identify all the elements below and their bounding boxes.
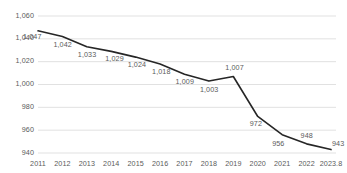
data-point-label: 972 xyxy=(250,120,262,128)
series-line-group xyxy=(38,31,331,150)
data-point-label: 1,024 xyxy=(128,61,147,69)
data-point-label: 956 xyxy=(272,140,284,148)
series-line xyxy=(38,31,331,150)
y-axis-tick-label: 980 xyxy=(2,103,34,111)
y-axis-tick-label: 1,020 xyxy=(2,57,34,65)
data-point-label: 948 xyxy=(301,132,313,140)
data-point-label: 1,042 xyxy=(53,41,72,49)
data-point-label: 943 xyxy=(332,140,344,148)
data-point-label: 1,007 xyxy=(225,64,244,72)
y-axis-tick-label: 1,060 xyxy=(2,12,34,20)
data-point-label: 1,009 xyxy=(176,78,195,86)
data-point-label: 1,003 xyxy=(200,86,219,94)
y-axis-tick-label: 1,000 xyxy=(2,80,34,88)
data-point-label: 1,018 xyxy=(152,68,171,76)
y-axis-tick-label: 940 xyxy=(2,149,34,157)
data-point-label: 1,029 xyxy=(105,55,124,63)
x-axis-tick-label: 2023.8 xyxy=(315,160,347,168)
data-point-label: 1,033 xyxy=(78,51,97,59)
y-axis-tick-label: 960 xyxy=(2,126,34,134)
data-point-label: 1,047 xyxy=(23,33,42,41)
